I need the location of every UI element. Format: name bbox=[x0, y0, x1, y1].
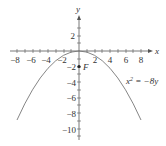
svg-text:−2: −2 bbox=[66, 62, 76, 72]
x-tick-labels: −8 −6 −4 −2 2 4 6 8 bbox=[10, 55, 144, 65]
equation-label: x2 = −8y bbox=[125, 76, 158, 86]
y-axis-arrow-icon bbox=[77, 15, 81, 20]
svg-text:−4: −4 bbox=[66, 78, 76, 88]
parabola-diagram: F x y −8 −6 −4 −2 2 4 6 8 2 −2 −4 −6 −8 … bbox=[0, 0, 166, 146]
svg-text:−8: −8 bbox=[10, 55, 20, 65]
svg-text:4: 4 bbox=[108, 55, 113, 65]
svg-text:−8: −8 bbox=[66, 109, 76, 119]
x-axis-label: x bbox=[154, 46, 159, 56]
svg-text:−2: −2 bbox=[57, 55, 67, 65]
x-axis-arrow-icon bbox=[148, 49, 153, 53]
svg-text:−6: −6 bbox=[66, 93, 76, 103]
focus-point bbox=[77, 65, 80, 68]
svg-text:6: 6 bbox=[124, 55, 129, 65]
svg-text:2: 2 bbox=[93, 55, 98, 65]
svg-text:2: 2 bbox=[71, 31, 76, 41]
svg-text:−10: −10 bbox=[62, 125, 77, 135]
svg-text:−4: −4 bbox=[41, 55, 51, 65]
y-tick-labels: 2 −2 −4 −6 −8 −10 bbox=[62, 31, 77, 135]
focus-label: F bbox=[82, 62, 89, 72]
y-axis-label: y bbox=[75, 4, 80, 14]
svg-text:−6: −6 bbox=[26, 55, 36, 65]
svg-text:8: 8 bbox=[139, 55, 144, 65]
